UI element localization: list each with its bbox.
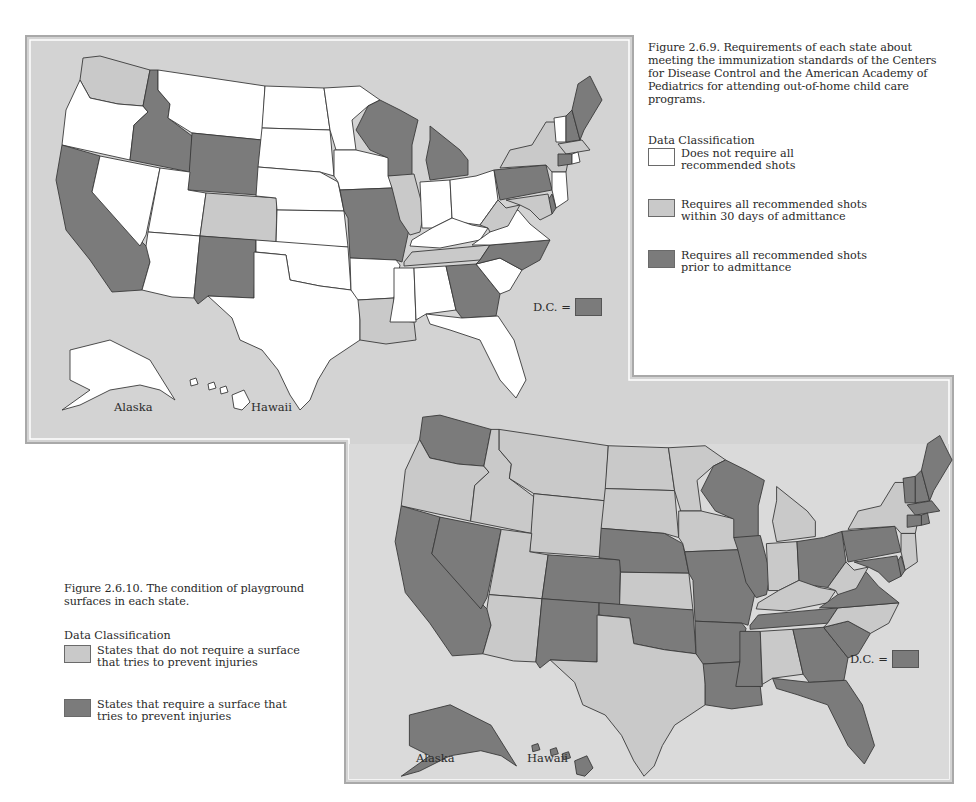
figure2-legend-title: Data Classification (64, 629, 171, 642)
figure2-caption: Figure 2.6.10. The condition of playgrou… (64, 582, 324, 608)
state-fl (773, 678, 875, 764)
state-ak (401, 705, 516, 776)
legend-label: Requires all recommended shots prior to … (681, 250, 881, 274)
legend-swatch-light (64, 645, 91, 663)
figure2-dc-key: D.C. = (850, 650, 919, 668)
figure1-hawaii-label: Hawaii (251, 400, 292, 414)
state-nd (605, 446, 674, 491)
figure2-legend-item-dark: States that require a surface that tries… (64, 699, 297, 723)
state-ar (695, 621, 746, 664)
state-ri (921, 513, 929, 525)
figure1-caption: Figure 2.6.9. Requirements of each state… (648, 41, 948, 106)
figure1-legend-item-dark: Requires all recommended shots prior to … (648, 250, 881, 274)
legend-label: Does not require all recommended shots (681, 148, 801, 172)
state-ks (620, 572, 693, 610)
state-nm (536, 599, 599, 668)
figure1-dc-key: D.C. = (533, 298, 602, 316)
legend-swatch-dark (64, 699, 91, 717)
dc-label: D.C. = (850, 652, 888, 666)
legend-label: Requires all recommended shots within 30… (681, 199, 881, 223)
figure2-alaska-label: Alaska (416, 751, 455, 765)
state-co (542, 555, 621, 605)
state-az (483, 595, 542, 662)
legend-swatch-dark (648, 250, 675, 268)
dc-swatch (892, 650, 919, 668)
dc-swatch (575, 298, 602, 316)
legend-swatch-light (648, 199, 675, 217)
state-mi (773, 487, 816, 542)
figure1-legend-title: Data Classification (648, 134, 755, 147)
legend-label: States that do not require a surface tha… (97, 645, 312, 669)
state-vt (903, 476, 915, 503)
figure1-legend-item-white: Does not require all recommended shots (648, 148, 801, 172)
figure1-alaska-label: Alaska (114, 400, 153, 414)
figure2-hawaii-label: Hawaii (527, 751, 568, 765)
legend-label: States that require a surface that tries… (97, 699, 297, 723)
legend-swatch-white (648, 148, 675, 166)
dc-label: D.C. = (533, 300, 571, 314)
state-ct (907, 515, 921, 527)
state-hi (575, 756, 593, 776)
state-wy (530, 494, 605, 557)
state-ms (736, 631, 763, 686)
figure2-legend-item-light: States that do not require a surface tha… (64, 645, 312, 669)
figure1-legend-item-light: Requires all recommended shots within 30… (648, 199, 881, 223)
